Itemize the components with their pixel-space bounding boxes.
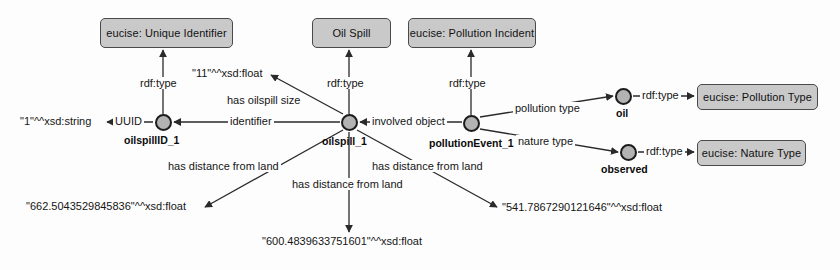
node-oil[interactable] (615, 88, 632, 105)
node-label-oil: oil (616, 107, 628, 119)
predicate-uuid: UUID (113, 115, 144, 127)
class-box-unique-identifier[interactable]: eucise: Unique Identifier (100, 18, 233, 48)
rdf-graph-canvas: eucise: Unique Identifier --> Oil Spill … (0, 0, 840, 270)
predicate-rdftype-oil: rdf:type (640, 89, 681, 101)
class-box-label: Oil Spill (332, 27, 370, 39)
literal-uuid-value: "1"^^xsd:string (18, 115, 93, 127)
predicate-distance-from-land-3: has distance from land (370, 160, 485, 172)
predicate-involved-object: involved object (370, 115, 447, 127)
predicate-rdftype-pollutionevent: rdf:type (447, 77, 488, 89)
node-pollutionevent-1[interactable] (463, 115, 480, 132)
literal-distance-2: "600.4839633751601"^^xsd:float (260, 235, 424, 247)
class-box-label: eucise: Pollution Incident (410, 27, 534, 39)
node-label-observed: observed (601, 163, 648, 175)
node-oilspill-1[interactable] (341, 114, 358, 131)
node-label-oilspill-1: oilspill_1 (322, 135, 367, 147)
predicate-identifier: identifier (228, 115, 274, 127)
node-observed[interactable] (620, 144, 637, 161)
predicate-nature-type: nature type (516, 135, 575, 147)
predicate-rdftype-observed: rdf:type (644, 145, 685, 157)
predicate-has-oilspill-size: has oilspill size (225, 94, 302, 106)
predicate-rdftype-oilspillid: rdf:type (138, 77, 179, 89)
class-box-pollution-type[interactable]: eucise: Pollution Type (697, 84, 818, 110)
predicate-distance-from-land-1: has distance from land (166, 160, 281, 172)
predicate-distance-from-land-2: has distance from land (290, 178, 405, 190)
class-box-label: eucise: Nature Type (702, 147, 802, 159)
node-oilspillid-1[interactable] (155, 114, 172, 131)
class-box-nature-type[interactable]: eucise: Nature Type (697, 140, 806, 166)
predicate-pollution-type: pollution type (513, 102, 582, 114)
class-box-oil-spill[interactable]: Oil Spill (312, 18, 391, 48)
class-box-label: eucise: Pollution Type (703, 91, 812, 103)
literal-distance-1: "662.5043529845836"^^xsd:float (24, 200, 188, 212)
class-box-label: eucise: Unique Identifier (106, 27, 227, 39)
node-label-pollutionevent-1: pollutionEvent_1 (429, 137, 514, 149)
literal-oilspill-size: "11"^^xsd:float (190, 67, 265, 79)
literal-distance-3: "541.7867290121646"^^xsd:float (500, 201, 664, 213)
node-label-oilspillid-1: oilspillID_1 (124, 134, 179, 146)
predicate-rdftype-oilspill: rdf:type (325, 77, 366, 89)
class-box-pollution-incident[interactable]: eucise: Pollution Incident (408, 18, 536, 48)
